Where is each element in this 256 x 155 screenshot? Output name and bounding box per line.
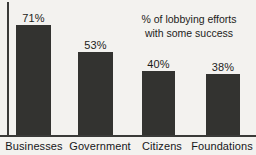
category-label-businesses: Businesses	[2, 139, 66, 154]
category-label-foundations: Foundations	[188, 139, 256, 154]
category-label-citizens: Citizens	[134, 139, 190, 154]
bar-group-foundations: 38%	[206, 0, 240, 136]
bar-group-government: 53%	[78, 0, 113, 136]
category-label-government: Government	[66, 139, 134, 154]
bar-foundations	[206, 74, 240, 135]
plot-area: 71% 53% 40% 38%	[0, 0, 256, 136]
bar-government	[78, 52, 113, 135]
bar-chart: % of lobbying efforts with some success …	[0, 0, 256, 155]
bar-group-businesses: 71%	[16, 0, 51, 136]
category-axis: Businesses Government Citizens Foundatio…	[0, 139, 256, 155]
bar-businesses	[16, 25, 51, 135]
bar-value-government: 53%	[78, 39, 113, 51]
bar-value-foundations: 38%	[206, 61, 240, 73]
bar-citizens	[142, 71, 175, 135]
bar-value-citizens: 40%	[142, 58, 175, 70]
bar-group-citizens: 40%	[142, 0, 175, 136]
bar-value-businesses: 71%	[16, 12, 51, 24]
